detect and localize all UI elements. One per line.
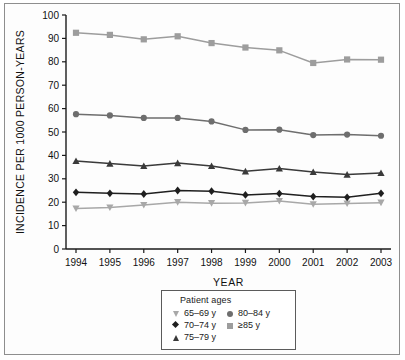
x-axis-tick-label: 1999 [234, 257, 257, 268]
data-point-diamond [378, 189, 384, 197]
legend-label: ≥85 y [238, 320, 260, 330]
series-80-84-y [73, 111, 384, 139]
data-point-square [310, 60, 316, 66]
y-axis-tick-label: 30 [48, 173, 60, 184]
legend-entry: 80–84 y [226, 307, 270, 319]
y-axis-tick-label: 90 [48, 33, 60, 44]
data-point-square [276, 47, 282, 53]
data-point-diamond [107, 189, 113, 197]
data-point-diamond [310, 193, 316, 201]
legend-label: 65–69 y [184, 308, 216, 318]
series-line [76, 33, 381, 63]
series--85-y [73, 30, 384, 66]
y-axis-tick-label: 80 [48, 56, 60, 67]
x-axis-tick-label: 2001 [302, 257, 325, 268]
legend-marker-triangle-down-icon [172, 309, 181, 318]
chart-legend: Patient ages 65–69 y70–74 y75–79 y 80–84… [161, 290, 296, 350]
x-axis-title: YEAR [213, 276, 244, 288]
legend-column-right: 80–84 y≥85 y [226, 307, 270, 343]
x-axis-tick-label: 1998 [200, 257, 223, 268]
legend-label: 75–79 y [184, 332, 216, 342]
series-75-79-y [72, 158, 384, 178]
x-axis-tick-label: 2002 [336, 257, 359, 268]
y-axis-tick-label: 60 [48, 103, 60, 114]
y-axis-tick-label: 70 [48, 80, 60, 91]
legend-marker-triangle-up-icon [172, 333, 181, 342]
series-70-74-y [73, 187, 384, 202]
series-65-69-y [72, 198, 384, 212]
legend-entry: 65–69 y [172, 307, 216, 319]
data-point-circle [310, 132, 316, 138]
x-axis-tick-label: 2000 [268, 257, 291, 268]
legend-marker-diamond-icon [172, 321, 181, 330]
x-axis-tick-label: 1995 [99, 257, 122, 268]
legend-title: Patient ages [172, 295, 295, 305]
legend-entry: 75–79 y [172, 331, 216, 343]
y-axis-tick-label: 50 [48, 127, 60, 138]
data-point-square [141, 36, 147, 42]
legend-entry: 70–74 y [172, 319, 216, 331]
data-point-diamond [174, 187, 180, 195]
data-point-square [107, 32, 113, 38]
y-axis-tick-label: 10 [48, 220, 60, 231]
data-point-circle [344, 131, 350, 137]
legend-label: 70–74 y [184, 320, 216, 330]
legend-marker-circle-icon [226, 309, 235, 318]
y-axis-tick-label: 40 [48, 150, 60, 161]
data-point-circle [242, 127, 248, 133]
legend-column-left: 65–69 y70–74 y75–79 y [172, 307, 216, 343]
series-line [76, 191, 381, 198]
data-point-square [378, 57, 384, 63]
series-line [76, 161, 381, 175]
data-point-square [73, 30, 79, 36]
data-point-diamond [73, 188, 79, 196]
data-point-circle [73, 111, 79, 117]
legend-marker-square-icon [226, 321, 235, 330]
legend-entry: ≥85 y [226, 319, 270, 331]
series-line [76, 114, 381, 136]
data-point-square [344, 56, 350, 62]
y-axis-tick-label: 0 [53, 244, 59, 255]
x-axis-tick-label: 1996 [133, 257, 156, 268]
data-point-square [175, 33, 181, 39]
data-point-circle [175, 115, 181, 121]
x-axis-tick-label: 2003 [370, 257, 393, 268]
series-line [76, 201, 381, 208]
data-point-circle [276, 127, 282, 133]
data-point-circle [107, 112, 113, 118]
data-point-circle [208, 118, 214, 124]
data-point-circle [378, 133, 384, 139]
figure: 0102030405060708090100199419951996199719… [0, 0, 405, 360]
data-point-circle [141, 115, 147, 121]
legend-label: 80–84 y [238, 308, 270, 318]
y-axis-tick-label: 100 [42, 10, 59, 21]
data-point-diamond [344, 193, 350, 201]
data-point-square [242, 44, 248, 50]
data-point-diamond [242, 191, 248, 199]
data-point-diamond [276, 190, 282, 198]
x-axis-tick-label: 1997 [167, 257, 190, 268]
data-point-square [208, 40, 214, 46]
data-point-diamond [208, 187, 214, 195]
x-axis-tick-label: 1994 [65, 257, 88, 268]
data-point-diamond [141, 190, 147, 198]
y-axis-tick-label: 20 [48, 197, 60, 208]
y-axis-title: INCIDENCE PER 1000 PERSON-YEARS [14, 30, 26, 234]
